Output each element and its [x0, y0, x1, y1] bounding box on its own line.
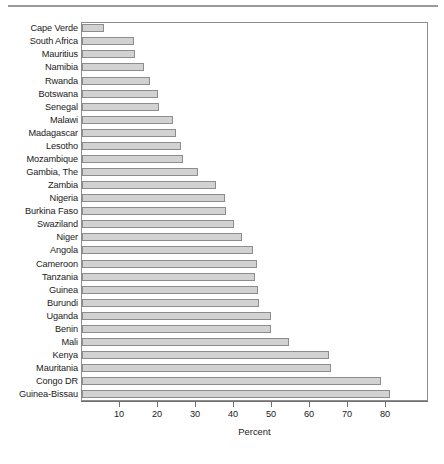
bar — [82, 260, 257, 268]
table-row: Niger — [0, 231, 444, 244]
bar — [82, 37, 134, 45]
x-tick — [195, 401, 196, 407]
table-row: Rwanda — [0, 74, 444, 87]
table-row: Namibia — [0, 61, 444, 74]
x-tick-label: 10 — [99, 409, 139, 419]
category-label: Burundi — [0, 298, 78, 308]
bar — [82, 168, 198, 176]
bottom-text-sliver — [10, 459, 260, 464]
table-row: Burkina Faso — [0, 205, 444, 218]
bar — [82, 220, 234, 228]
category-label: Zambia — [0, 180, 78, 190]
bar — [82, 77, 150, 85]
bar — [82, 207, 226, 215]
category-label: Mozambique — [0, 154, 78, 164]
category-label: Benin — [0, 324, 78, 334]
x-tick-label: 60 — [289, 409, 329, 419]
table-row: Lesotho — [0, 140, 444, 153]
bar — [82, 364, 331, 372]
table-row: Kenya — [0, 349, 444, 362]
category-label: Guinea — [0, 285, 78, 295]
x-tick-label: 30 — [175, 409, 215, 419]
x-tick — [309, 401, 310, 407]
bar — [82, 351, 329, 359]
category-label: South Africa — [0, 36, 78, 46]
bar-chart-figure: Cape VerdeSouth AfricaMauritiusNamibiaRw… — [0, 0, 444, 464]
category-label: Botswana — [0, 89, 78, 99]
category-label: Niger — [0, 232, 78, 242]
bar — [82, 338, 289, 346]
bar — [82, 90, 158, 98]
table-row: Burundi — [0, 296, 444, 309]
category-label: Angola — [0, 245, 78, 255]
x-tick-label: 70 — [327, 409, 367, 419]
bar — [82, 142, 181, 150]
category-label: Mali — [0, 337, 78, 347]
table-row: Uganda — [0, 310, 444, 323]
table-row: Botswana — [0, 87, 444, 100]
bar — [82, 233, 242, 241]
x-tick — [385, 401, 386, 407]
category-label: Malawi — [0, 115, 78, 125]
bar — [82, 116, 173, 124]
table-row: Mozambique — [0, 153, 444, 166]
table-row: South Africa — [0, 35, 444, 48]
category-label: Guinea-Bissau — [0, 389, 78, 399]
category-label: Rwanda — [0, 76, 78, 86]
table-row: Mauritania — [0, 362, 444, 375]
table-row: Tanzania — [0, 270, 444, 283]
top-horizontal-rule — [8, 5, 438, 7]
x-tick — [233, 401, 234, 407]
bar — [82, 103, 159, 111]
category-label: Madagascar — [0, 128, 78, 138]
category-label: Burkina Faso — [0, 206, 78, 216]
x-tick-label: 20 — [137, 409, 177, 419]
category-label: Cape Verde — [0, 23, 78, 33]
category-label: Congo DR — [0, 376, 78, 386]
category-label: Kenya — [0, 350, 78, 360]
category-label: Cameroon — [0, 259, 78, 269]
category-label: Swaziland — [0, 219, 78, 229]
bar-rows-container: Cape VerdeSouth AfricaMauritiusNamibiaRw… — [0, 22, 444, 401]
table-row: Nigeria — [0, 192, 444, 205]
bar — [82, 50, 135, 58]
x-tick — [347, 401, 348, 407]
bar — [82, 24, 104, 32]
bar — [82, 155, 183, 163]
bar — [82, 273, 255, 281]
category-label: Senegal — [0, 102, 78, 112]
x-tick — [119, 401, 120, 407]
bar — [82, 390, 390, 398]
table-row: Malawi — [0, 113, 444, 126]
bar — [82, 377, 381, 385]
category-label: Mauritius — [0, 49, 78, 59]
bar — [82, 181, 216, 189]
bar — [82, 194, 225, 202]
category-label: Uganda — [0, 311, 78, 321]
bar — [82, 312, 271, 320]
table-row: Swaziland — [0, 218, 444, 231]
category-label: Namibia — [0, 62, 78, 72]
category-label: Tanzania — [0, 272, 78, 282]
x-axis-line — [81, 401, 428, 402]
table-row: Mali — [0, 336, 444, 349]
table-row: Senegal — [0, 100, 444, 113]
table-row: Cameroon — [0, 257, 444, 270]
x-tick-label: 50 — [251, 409, 291, 419]
bar — [82, 325, 271, 333]
x-tick-label: 80 — [365, 409, 405, 419]
bar — [82, 129, 176, 137]
x-tick — [271, 401, 272, 407]
category-label: Lesotho — [0, 141, 78, 151]
category-label: Mauritania — [0, 363, 78, 373]
table-row: Madagascar — [0, 127, 444, 140]
x-tick — [157, 401, 158, 407]
x-tick-label: 40 — [213, 409, 253, 419]
x-axis-title: Percent — [81, 426, 428, 437]
table-row: Mauritius — [0, 48, 444, 61]
table-row: Congo DR — [0, 375, 444, 388]
table-row: Guinea — [0, 283, 444, 296]
category-label: Nigeria — [0, 193, 78, 203]
table-row: Zambia — [0, 179, 444, 192]
table-row: Gambia, The — [0, 166, 444, 179]
